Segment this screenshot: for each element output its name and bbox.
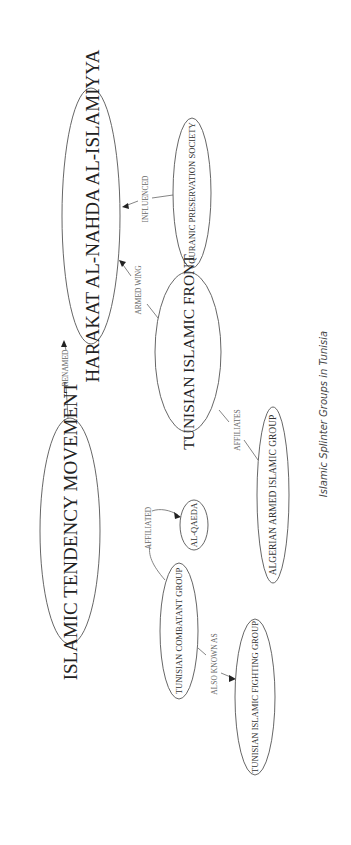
node-tunisian-islamic-fighting-group: TUNISIAN ISLAMIC FIGHTING GROUP [235,619,275,775]
node-label: ISLAMIC TENDENCY MOVEMENT [60,381,81,680]
arrow-head [174,512,181,519]
edge-label-affiliates: AFFILIATES [233,409,242,450]
edge-label-renamed: RENAMED [61,349,70,387]
node-label: HARAKAT AL-NAHDA AL-ISLAMIYYA [82,49,103,382]
node-al-qaeda: AL-QAEDA [180,500,208,550]
node-label: QURANIC PRESERVATION SOCIETY [187,122,197,263]
node-tunisian-islamic-front: TUNISIAN ISLAMIC FRONT [155,254,221,450]
node-harakat: HARAKAT AL-NAHDA AL-ISLAMIYYA [62,49,120,382]
node-label: ALGERIAN ARMED ISLAMIC GROUP [268,415,278,576]
edge-label-affiliated: AFFILIATED [144,506,153,549]
node-algerian-armed-islamic-group: ALGERIAN ARMED ISLAMIC GROUP [257,407,289,583]
node-label: AL-QAEDA [189,502,199,547]
edge-label-armed-wing: ARMED WING [134,265,143,315]
edge-affiliated [150,545,165,580]
arrow-head [122,203,129,209]
node-label: TUNISIAN ISLAMIC FIGHTING GROUP [250,621,260,773]
node-label: TUNISIAN ISLAMIC FRONT [180,254,197,450]
node-label: TUNISIAN COMBATANT GROUP [174,567,184,694]
arrow-head [61,340,67,347]
edge-label-also-known-as: ALSO KNOWN AS [210,633,219,694]
edge-label-influenced: INFLUENCED [141,175,150,223]
splinter-groups-diagram: HARAKAT AL-NAHDA AL-ISLAMIYYA QURANIC PR… [0,0,351,845]
arrow-head [119,260,126,267]
node-quranic-preservation-society: QURANIC PRESERVATION SOCIETY [173,118,211,268]
node-islamic-tendency-movement: ISLAMIC TENDENCY MOVEMENT [40,381,100,680]
diagram-caption: Islamic Splinter Groups in Tunisia [318,331,329,497]
node-tunisian-combatant-group: TUNISIAN COMBATANT GROUP [160,563,198,699]
